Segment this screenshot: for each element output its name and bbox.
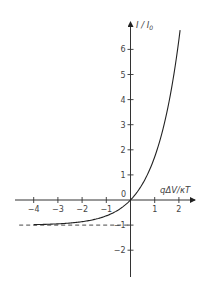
x-tick-label: −1 (100, 205, 112, 214)
y-axis-label-sub: 0 (149, 24, 153, 31)
x-tick-label: −2 (76, 205, 88, 214)
y-tick-label: 2 (120, 146, 125, 155)
y-tick-label: −2 (114, 246, 126, 255)
x-tick-label: 2 (176, 205, 181, 214)
y-tick-label: 5 (120, 71, 125, 80)
x-axis-label: qΔV/κT (160, 185, 191, 195)
x-tick-label: 1 (152, 205, 157, 214)
y-tick-label: 1 (120, 171, 125, 180)
y-axis-label-main: I / I (136, 20, 150, 30)
y-tick-label: −1 (114, 221, 126, 230)
iv-curve (34, 30, 180, 225)
x-tick-label: −3 (52, 205, 64, 214)
origin-label: 0 (121, 190, 126, 199)
y-axis-label: I / I0 (136, 20, 153, 31)
y-tick-label: 3 (120, 121, 125, 130)
y-tick-label: 6 (120, 45, 125, 54)
x-tick-label: −4 (28, 205, 40, 214)
y-tick-label: 4 (120, 96, 125, 105)
chart: −4−3−2−112 −2−1123456 0 qΔV/κT I / I0 (0, 0, 205, 296)
